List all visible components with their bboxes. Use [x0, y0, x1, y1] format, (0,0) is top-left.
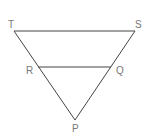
label-r: R: [26, 65, 33, 76]
label-q: Q: [116, 65, 124, 76]
label-s: S: [135, 19, 142, 30]
label-t: T: [8, 19, 14, 30]
label-p: P: [72, 123, 79, 134]
segment-tp: [14, 31, 75, 120]
segment-sp: [75, 31, 135, 120]
triangle-diagram: T S R Q P: [0, 0, 152, 136]
